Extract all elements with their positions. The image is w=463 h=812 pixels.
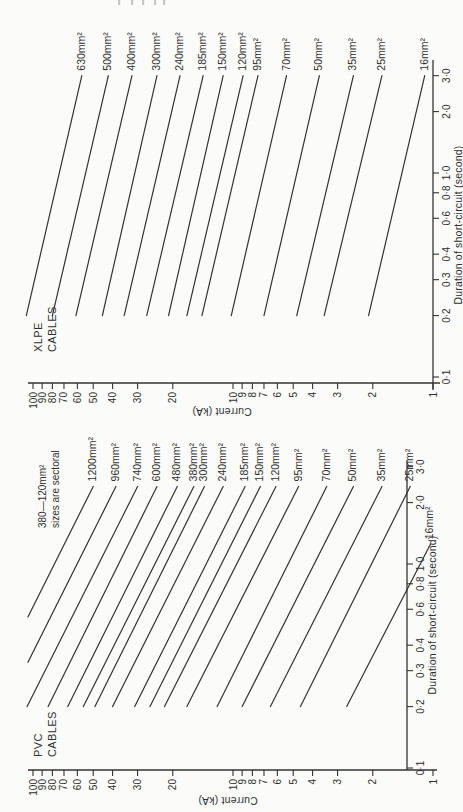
y-tick-label: 70	[58, 392, 69, 404]
chart-title-line: XLPE	[32, 322, 44, 352]
cable-line-500mm2	[52, 76, 108, 316]
rotated-figure-stage: 0·10·20·30·40·60·81·02·03·0Duration of s…	[0, 0, 463, 812]
y-tick-label: 7	[258, 779, 269, 785]
cable-label-95mm2: 95mm²	[292, 448, 304, 481]
cable-label-25mm2: 25mm²	[375, 37, 387, 70]
y-tick-label: 3	[332, 392, 343, 398]
cable-label-95mm2: 95mm²	[251, 37, 263, 70]
cable-line-300mm2	[95, 486, 204, 706]
cable-label-400mm2: 400mm²	[125, 32, 137, 71]
cable-line-185mm2	[147, 76, 203, 316]
page-edge-artifact	[118, 0, 165, 5]
cable-line-95mm2	[187, 486, 299, 706]
x-tick-label: 0·2	[441, 308, 452, 323]
cable-label-300mm2: 300mm²	[150, 32, 162, 71]
cable-label-300mm2: 300mm²	[197, 442, 209, 481]
x-tick-label: 0·8	[441, 185, 452, 200]
y-tick-label: 50	[88, 392, 99, 404]
sectoral-note-line: 380—120mm²	[37, 464, 48, 528]
figure-canvas: 0·10·20·30·40·60·81·02·03·0Duration of s…	[0, 0, 463, 812]
y-tick-label: 100	[28, 779, 39, 796]
y-axis-title: Current (kA)	[198, 795, 258, 807]
x-tick-label: 0·6	[441, 211, 452, 226]
cable-label-480mm2: 480mm²	[170, 442, 182, 481]
y-tick-label: 8	[247, 392, 258, 398]
y-tick-label: 80	[47, 779, 58, 791]
cable-label-35mm2: 35mm²	[346, 37, 358, 70]
x-tick-label: 0·6	[415, 602, 426, 617]
y-tick-label: 100	[28, 392, 39, 409]
y-tick-label: 4	[307, 392, 318, 398]
chart-title-line: CABLES	[46, 711, 58, 757]
y-tick-label: 8	[247, 779, 258, 785]
cable-label-120mm2: 120mm²	[269, 442, 281, 481]
y-tick-label: 3	[332, 779, 343, 785]
y-tick-label: 6	[272, 779, 283, 785]
y-tick-label: 1	[428, 779, 439, 785]
cable-label-120mm2: 120mm²	[236, 32, 248, 71]
y-tick-label: 20	[167, 392, 178, 404]
cable-label-185mm2: 185mm²	[196, 32, 208, 71]
page-edge-artifact-mark	[131, 0, 133, 5]
x-tick-label: 3·0	[441, 68, 452, 83]
cable-label-16mm2: 16mm²	[418, 37, 430, 70]
cable-line-600mm2	[48, 486, 157, 706]
y-tick-label: 10	[228, 779, 239, 791]
y-tick-label: 50	[88, 779, 99, 791]
y-tick-label: 5	[288, 392, 299, 398]
cable-line-150mm2	[150, 486, 260, 706]
cable-label-70mm2: 70mm²	[320, 448, 332, 481]
page-edge-artifact-mark	[154, 0, 156, 5]
cable-label-185mm2: 185mm²	[238, 442, 250, 481]
cable-label-70mm2: 70mm²	[280, 37, 292, 70]
x-tick-label: 0·1	[415, 760, 426, 775]
cable-label-150mm2: 150mm²	[216, 32, 228, 71]
cable-label-740mm2: 740mm²	[131, 442, 143, 481]
x-tick-label: 3·0	[415, 459, 426, 474]
x-axis-title: Duration of short-circuit (second)	[426, 535, 438, 694]
cable-label-240mm2: 240mm²	[173, 32, 185, 71]
cable-label-500mm2: 500mm²	[101, 32, 113, 71]
x-tick-label: 0·2	[415, 699, 426, 714]
y-tick-label: 10	[228, 392, 239, 404]
x-tick-label: 2·0	[441, 104, 452, 119]
page-edge-artifact-mark	[118, 0, 120, 5]
cable-line-16mm2	[369, 76, 425, 316]
cable-line-630mm2	[26, 76, 82, 316]
page: 0·10·20·30·40·60·81·02·03·0Duration of s…	[0, 0, 463, 812]
y-tick-label: 60	[72, 392, 83, 404]
cable-line-16mm2	[347, 544, 431, 706]
cable-line-240mm2	[113, 486, 224, 706]
cable-line-480mm2	[68, 486, 177, 706]
y-tick-label: 5	[288, 779, 299, 785]
x-tick-label: 1·0	[441, 165, 452, 180]
cable-line-185mm2	[135, 486, 245, 706]
y-axis-title: Current (kA)	[192, 406, 252, 418]
cable-label-630mm2: 630mm²	[75, 32, 87, 71]
cable-label-25mm2: 25mm²	[403, 448, 415, 481]
y-tick-label: 2	[367, 779, 378, 785]
cable-line-35mm2	[297, 76, 354, 316]
y-tick-label: 60	[72, 779, 83, 791]
page-edge-artifact-mark	[142, 0, 144, 5]
y-tick-label: 7	[258, 392, 269, 398]
page-edge-artifact-mark	[163, 0, 165, 5]
y-tick-label: 30	[132, 392, 143, 404]
y-tick-label: 80	[47, 392, 58, 404]
y-tick-label: 20	[167, 779, 178, 791]
cable-label-960mm2: 960mm²	[109, 442, 121, 481]
x-tick-label: 0·8	[415, 576, 426, 591]
chart-pvc: 0·10·20·30·40·60·81·02·03·0Duration of s…	[27, 437, 438, 807]
y-tick-label: 40	[107, 392, 118, 404]
cable-label-150mm2: 150mm²	[253, 442, 265, 481]
cable-line-95mm2	[202, 76, 258, 316]
cable-line-400mm2	[76, 76, 132, 316]
y-tick-label: 4	[307, 779, 318, 785]
cable-line-70mm2	[217, 486, 327, 706]
x-tick-label: 0·3	[441, 272, 452, 287]
y-tick-label: 6	[272, 392, 283, 398]
cable-line-25mm2	[324, 76, 382, 316]
x-tick-label: 0·3	[415, 663, 426, 678]
cable-line-50mm2	[264, 76, 319, 316]
cable-label-35mm2: 35mm²	[375, 448, 387, 481]
